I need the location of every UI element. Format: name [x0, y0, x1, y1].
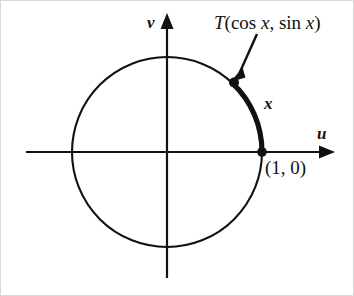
point-marker-unit	[257, 147, 267, 157]
unit-circle-figure: v u T(cos x, sin x) x (1, 0)	[0, 0, 354, 296]
u-axis-arrowhead-icon	[319, 146, 335, 159]
arc-x-highlight	[233, 84, 262, 152]
v-axis-label: v	[147, 14, 155, 31]
point-t-label: T(cos x, sin x)	[214, 13, 321, 32]
point-t-symbol: T	[214, 12, 225, 33]
v-axis-arrowhead-icon	[161, 13, 174, 29]
point-marker-t	[229, 78, 239, 88]
figure-canvas	[1, 1, 354, 296]
u-axis-label: u	[317, 125, 326, 142]
point-t-close-paren: )	[314, 12, 320, 33]
point-t-open-paren: (cos	[225, 12, 261, 33]
unit-point-coordinate-label: (1, 0)	[265, 158, 306, 177]
leader-arrow-line	[240, 34, 258, 73]
arc-length-label: x	[264, 95, 273, 112]
point-t-separator: , sin	[269, 12, 305, 33]
